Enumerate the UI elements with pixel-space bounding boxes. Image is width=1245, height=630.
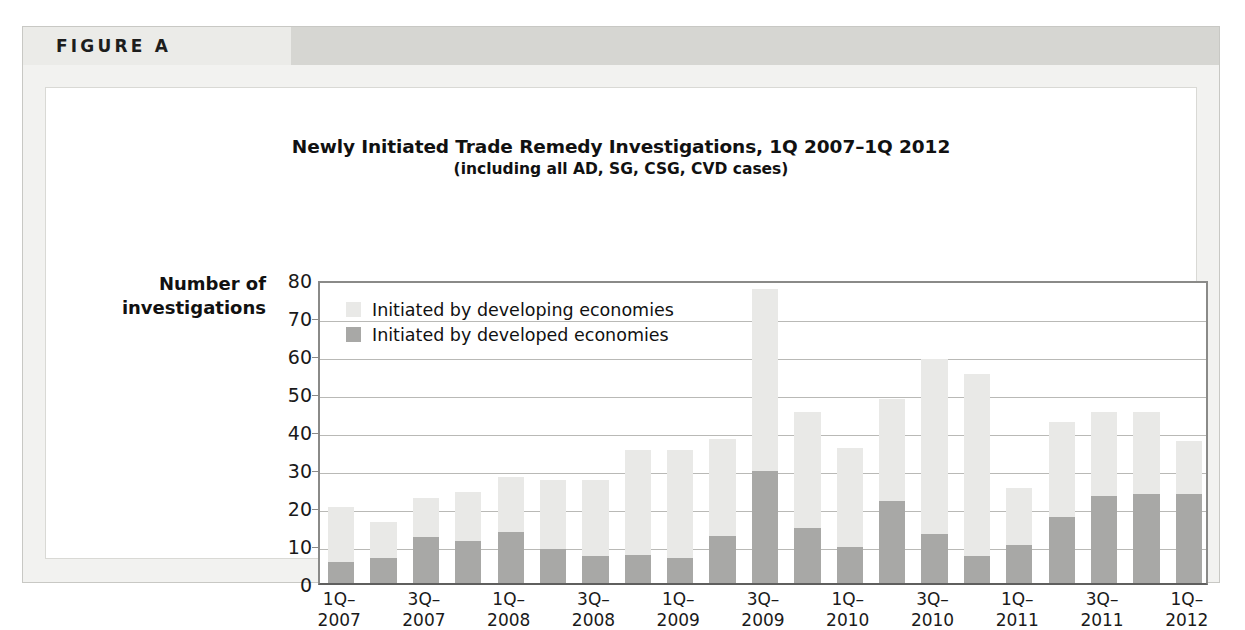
bar-segment-developing (752, 289, 778, 471)
y-axis-tick-marks (46, 281, 326, 585)
bar-segment-developed (1091, 496, 1117, 583)
bar-segment-developing (1049, 422, 1075, 517)
bar-segment-developed (794, 528, 820, 583)
legend-swatch-developed (346, 327, 361, 342)
legend-label: Initiated by developed economies (372, 325, 669, 345)
bar-segment-developed (752, 471, 778, 583)
bar-segment-developed (328, 562, 354, 583)
bar-group[interactable] (709, 439, 735, 583)
bar-segment-developed (709, 536, 735, 584)
bar-group[interactable] (667, 450, 693, 583)
bar-group[interactable] (921, 359, 947, 583)
chart-card: Newly Initiated Trade Remedy Investigati… (45, 87, 1197, 559)
bar-group[interactable] (328, 507, 354, 583)
bar-segment-developed (625, 555, 651, 584)
chart-legend: Initiated by developing economiesInitiat… (346, 297, 674, 347)
bar-group[interactable] (1049, 422, 1075, 584)
bar-segment-developing (964, 374, 990, 556)
bar-segment-developed (540, 549, 566, 583)
bar-group[interactable] (413, 498, 439, 584)
x-axis-tick-label: 3Q– 2009 (723, 589, 803, 630)
bar-segment-developing (498, 477, 524, 532)
legend-item[interactable]: Initiated by developing economies (346, 297, 674, 322)
bar-segment-developing (540, 480, 566, 548)
figure-header-shade-block (291, 27, 1219, 65)
bar-group[interactable] (455, 492, 481, 583)
bar-group[interactable] (498, 477, 524, 583)
bar-segment-developing (413, 498, 439, 538)
chart-title: Newly Initiated Trade Remedy Investigati… (46, 136, 1196, 157)
x-axis-tick-label: 1Q– 2012 (1147, 589, 1227, 630)
x-axis-tick-labels: 1Q– 20073Q– 20071Q– 20083Q– 20081Q– 2009… (318, 589, 1208, 630)
bar-segment-developed (921, 534, 947, 583)
bar-group[interactable] (1176, 441, 1202, 584)
bar-segment-developing (879, 399, 905, 502)
bar-segment-developed (667, 558, 693, 583)
bar-segment-developed (837, 547, 863, 583)
bar-segment-developing (1133, 412, 1159, 494)
bar-group[interactable] (752, 289, 778, 584)
bar-group[interactable] (582, 480, 608, 583)
bar-group[interactable] (964, 374, 990, 583)
bar-segment-developing (582, 480, 608, 556)
bar-segment-developed (1049, 517, 1075, 584)
legend-swatch-developing (346, 302, 361, 317)
bar-group[interactable] (1006, 488, 1032, 583)
bar-segment-developed (1133, 494, 1159, 583)
x-axis-tick-label: 1Q– 2010 (808, 589, 888, 630)
figure-panel: FIGURE A Newly Initiated Trade Remedy In… (22, 26, 1220, 583)
bar-group[interactable] (1091, 412, 1117, 583)
x-axis-tick-label: 3Q– 2010 (893, 589, 973, 630)
bar-group[interactable] (370, 522, 396, 583)
x-axis-tick-label: 3Q– 2011 (1062, 589, 1142, 630)
x-axis-tick-label: 3Q– 2008 (553, 589, 633, 630)
bar-segment-developed (879, 501, 905, 583)
bar-group[interactable] (625, 450, 651, 583)
bar-segment-developed (964, 556, 990, 583)
chart-subtitle: (including all AD, SG, CSG, CVD cases) (46, 160, 1196, 178)
bar-segment-developing (794, 412, 820, 528)
bar-segment-developed (1006, 545, 1032, 583)
bar-segment-developing (1176, 441, 1202, 494)
x-axis-tick-label: 1Q– 2009 (638, 589, 718, 630)
bar-group[interactable] (794, 412, 820, 583)
bar-group[interactable] (1133, 412, 1159, 583)
legend-item[interactable]: Initiated by developed economies (346, 322, 674, 347)
figure-label: FIGURE A (56, 36, 171, 56)
bar-segment-developing (625, 450, 651, 555)
bar-group[interactable] (879, 399, 905, 583)
bar-group[interactable] (540, 480, 566, 583)
x-axis-tick-label: 1Q– 2011 (977, 589, 1057, 630)
x-axis-tick-label: 3Q– 2007 (384, 589, 464, 630)
bar-segment-developed (455, 541, 481, 583)
figure-header-band: FIGURE A (23, 27, 1219, 65)
bar-segment-developing (709, 439, 735, 536)
bar-segment-developing (667, 450, 693, 558)
bar-segment-developed (413, 537, 439, 583)
x-axis-tick-label: 1Q– 2007 (299, 589, 379, 630)
bar-segment-developing (370, 522, 396, 558)
bar-segment-developing (328, 507, 354, 562)
bar-segment-developing (1006, 488, 1032, 545)
legend-label: Initiated by developing economies (372, 300, 674, 320)
bar-segment-developed (370, 558, 396, 583)
bar-segment-developing (921, 359, 947, 534)
bar-segment-developed (1176, 494, 1202, 583)
bar-group[interactable] (837, 448, 863, 583)
bar-segment-developed (498, 532, 524, 583)
bar-segment-developing (837, 448, 863, 547)
x-axis-tick-label: 1Q– 2008 (469, 589, 549, 630)
bar-segment-developing (455, 492, 481, 541)
bar-segment-developed (582, 556, 608, 583)
bar-segment-developing (1091, 412, 1117, 496)
